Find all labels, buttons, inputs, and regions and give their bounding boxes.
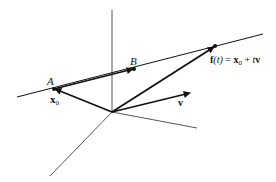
label-plus: + — [242, 54, 253, 65]
vector-f-t — [112, 47, 214, 112]
x-axis — [50, 112, 112, 176]
label-equals: = — [223, 54, 234, 65]
label-b: B — [130, 56, 137, 67]
label-f-v: v — [255, 54, 260, 65]
label-f-arg: (t) — [213, 54, 222, 65]
point-a — [52, 87, 56, 91]
vector-ab — [54, 69, 133, 89]
point-b — [132, 67, 136, 71]
point-f-t — [213, 44, 217, 48]
label-f-equation: f(t) = x0 + tv — [210, 55, 260, 67]
y-axis — [112, 112, 197, 128]
label-v: v — [178, 98, 183, 108]
vector-x0 — [55, 89, 112, 112]
diagram-canvas: A B x0 v f(t) = x0 + tv — [0, 0, 276, 182]
label-a: A — [47, 76, 54, 87]
label-x0-sub: 0 — [56, 99, 60, 107]
label-x0: x0 — [50, 94, 59, 107]
diagram-svg — [0, 0, 276, 182]
